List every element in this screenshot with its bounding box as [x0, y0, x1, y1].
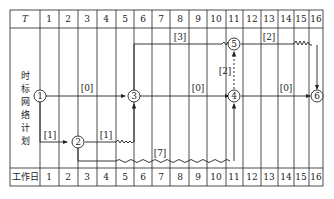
arrow-3-5: [134, 44, 222, 90]
svg-text:3: 3: [131, 91, 137, 101]
footer-columns: 1 2 3 4 5 6 7 8 9 10 11 12 13 14 15 16: [46, 172, 322, 182]
svg-text:16: 16: [310, 14, 322, 24]
node-2: 2: [72, 136, 84, 148]
svg-text:14: 14: [280, 172, 292, 182]
svg-text:5: 5: [231, 39, 237, 49]
svg-text:6: 6: [314, 91, 320, 101]
svg-text:8: 8: [177, 172, 183, 182]
nodes: 1 2 3 4 5 6: [34, 38, 323, 148]
svg-text:[2]: [2]: [263, 32, 276, 42]
header-label: T: [22, 14, 29, 24]
svg-text:16: 16: [310, 172, 322, 182]
svg-text:13: 13: [263, 14, 275, 24]
svg-text:[0]: [0]: [280, 83, 293, 93]
svg-text:[1]: [1]: [44, 130, 57, 140]
node-5: 5: [228, 38, 240, 50]
svg-text:4: 4: [103, 14, 109, 24]
footer-label: 工作日: [12, 171, 39, 182]
svg-text:5: 5: [122, 172, 128, 182]
node-1: 1: [34, 90, 46, 102]
node-6: 6: [311, 90, 323, 102]
svg-text:络: 络: [21, 109, 30, 120]
node-4: 4: [228, 90, 240, 102]
svg-text:[2]: [2]: [219, 66, 232, 76]
svg-text:2: 2: [65, 172, 71, 182]
svg-text:9: 9: [195, 172, 201, 182]
time-scaled-network-diagram: T 1 2 3 4 5 6 7 8 9 10 11 12 13 14 15 16…: [0, 0, 334, 199]
svg-text:11: 11: [228, 172, 239, 182]
svg-text:14: 14: [280, 14, 292, 24]
svg-text:10: 10: [210, 172, 222, 182]
svg-text:时: 时: [21, 70, 30, 81]
svg-text:4: 4: [103, 172, 109, 182]
svg-text:10: 10: [210, 14, 222, 24]
svg-text:15: 15: [295, 172, 307, 182]
svg-text:2: 2: [65, 14, 71, 24]
svg-text:5: 5: [122, 14, 128, 24]
svg-text:15: 15: [295, 14, 307, 24]
svg-text:6: 6: [140, 172, 146, 182]
svg-text:7: 7: [158, 14, 164, 24]
side-label: 时 标 网 络 计 划: [21, 70, 30, 146]
svg-text:9: 9: [195, 14, 201, 24]
svg-text:3: 3: [84, 172, 90, 182]
svg-text:12: 12: [246, 14, 257, 24]
svg-text:7: 7: [158, 172, 164, 182]
svg-text:标: 标: [21, 83, 30, 94]
svg-text:1: 1: [46, 14, 52, 24]
svg-text:2: 2: [75, 137, 81, 147]
svg-text:12: 12: [246, 172, 257, 182]
svg-text:[7]: [7]: [154, 148, 167, 158]
svg-text:11: 11: [228, 14, 239, 24]
svg-text:[0]: [0]: [81, 83, 94, 93]
svg-text:4: 4: [231, 91, 237, 101]
svg-text:网: 网: [21, 97, 30, 107]
svg-text:划: 划: [21, 135, 30, 146]
node-3: 3: [128, 90, 140, 102]
svg-text:1: 1: [46, 172, 52, 182]
svg-text:3: 3: [84, 14, 90, 24]
svg-text:13: 13: [263, 172, 275, 182]
svg-text:[1]: [1]: [100, 130, 113, 140]
svg-text:1: 1: [37, 91, 43, 101]
header-columns: 1 2 3 4 5 6 7 8 9 10 11 12 13 14 15 16: [46, 14, 322, 24]
svg-text:[0]: [0]: [192, 83, 205, 93]
svg-text:计: 计: [21, 122, 30, 133]
svg-text:6: 6: [140, 14, 146, 24]
svg-text:8: 8: [177, 14, 183, 24]
svg-text:[3]: [3]: [174, 32, 187, 42]
